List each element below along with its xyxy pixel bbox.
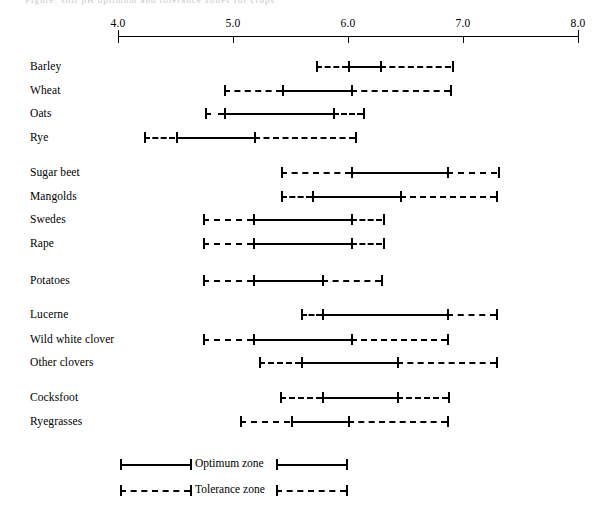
range-bar: [0, 214, 608, 226]
tolerance-cap-left: [281, 167, 283, 178]
tolerance-segment-left: [280, 397, 321, 399]
optimum-cap-right: [447, 309, 449, 320]
range-bar: [0, 61, 608, 73]
tolerance-cap-left: [203, 214, 205, 225]
tolerance-segment-left: [203, 219, 252, 221]
tolerance-segment-left: [301, 314, 322, 316]
tolerance-cap-right: [450, 85, 452, 96]
ph-range-chart: Figure: soil pH optimum and tolerance zo…: [0, 0, 608, 512]
optimum-cap-left: [176, 132, 178, 143]
tolerance-segment-right: [397, 397, 448, 399]
tolerance-cap-left: [316, 61, 318, 72]
optimum-cap-right: [397, 392, 399, 403]
tolerance-segment-left: [203, 280, 252, 282]
range-bar: [0, 191, 608, 203]
tolerance-segment-right: [400, 196, 497, 198]
optimum-segment: [253, 219, 352, 221]
optimum-cap-left: [253, 334, 255, 345]
tolerance-segment-right: [333, 113, 363, 115]
optimum-cap-left: [253, 238, 255, 249]
optimum-segment: [176, 137, 254, 139]
optimum-cap-right: [380, 61, 382, 72]
tolerance-cap-right: [447, 416, 449, 427]
tolerance-segment-left: [224, 90, 283, 92]
optimum-cap-left: [322, 392, 324, 403]
tolerance-segment-left: [259, 362, 300, 364]
tolerance-segment-right: [351, 219, 382, 221]
optimum-cap-right: [397, 357, 399, 368]
tolerance-segment-right: [254, 137, 355, 139]
optimum-segment: [224, 113, 333, 115]
tolerance-segment-left: [144, 137, 175, 139]
range-bar: [0, 275, 608, 287]
tolerance-segment-right: [322, 280, 382, 282]
tolerance-cap-right: [355, 132, 357, 143]
axis-tick-label: 6.0: [328, 17, 368, 29]
optimum-cap-left: [253, 275, 255, 286]
optimum-cap-left: [253, 214, 255, 225]
tolerance-segment-left: [281, 172, 351, 174]
legend-tolerance-cap: [190, 485, 192, 496]
tolerance-cap-left: [205, 108, 207, 119]
axis-tick-label: 7.0: [443, 17, 483, 29]
optimum-segment: [351, 172, 446, 174]
optimum-cap-right: [447, 167, 449, 178]
range-bar: [0, 392, 608, 404]
legend-tolerance-cap: [276, 485, 278, 496]
tolerance-segment-right: [447, 172, 498, 174]
legend-optimum-line-right: [276, 464, 346, 466]
optimum-cap-right: [254, 132, 256, 143]
range-bar: [0, 108, 608, 120]
axis-tick-label: 5.0: [213, 17, 253, 29]
tolerance-segment-left: [316, 66, 348, 68]
optimum-cap-left: [291, 416, 293, 427]
axis-tick-4.0: [118, 30, 119, 43]
range-bar: [0, 357, 608, 369]
tolerance-cap-right: [452, 61, 454, 72]
tolerance-cap-right: [383, 214, 385, 225]
optimum-cap-left: [224, 108, 226, 119]
legend-optimum-cap: [120, 459, 122, 470]
legend-tolerance-cap: [346, 485, 348, 496]
optimum-cap-right: [322, 275, 324, 286]
legend-optimum: Optimum zone: [0, 459, 608, 471]
optimum-cap-left: [282, 85, 284, 96]
optimum-segment: [348, 66, 380, 68]
tolerance-segment-left: [240, 421, 291, 423]
tolerance-segment-right: [380, 66, 451, 68]
optimum-segment: [282, 90, 351, 92]
optimum-cap-left: [301, 357, 303, 368]
legend-optimum-line-left: [120, 464, 190, 466]
tolerance-cap-right: [447, 334, 449, 345]
tolerance-cap-right: [383, 238, 385, 249]
axis-tick-8.0: [578, 30, 579, 43]
cut-off-caption: Figure: soil pH optimum and tolerance zo…: [0, 0, 608, 9]
range-bar: [0, 132, 608, 144]
tolerance-cap-left: [281, 191, 283, 202]
axis-tick-5.0: [233, 36, 234, 43]
legend-tolerance-line-right: [276, 490, 346, 492]
tolerance-segment-right: [348, 421, 447, 423]
tolerance-segment-left: [203, 339, 252, 341]
tolerance-cap-right: [496, 309, 498, 320]
tolerance-cap-left: [259, 357, 261, 368]
range-bar: [0, 167, 608, 179]
legend-tolerance: Tolerance zone: [0, 485, 608, 497]
optimum-segment: [301, 362, 398, 364]
optimum-cap-right: [351, 334, 353, 345]
legend-optimum-cap: [190, 459, 192, 470]
optimum-cap-right: [348, 416, 350, 427]
tolerance-cap-right: [381, 275, 383, 286]
optimum-cap-left: [348, 61, 350, 72]
tolerance-segment-right: [351, 243, 382, 245]
optimum-cap-left: [351, 167, 353, 178]
optimum-segment: [253, 339, 352, 341]
tolerance-segment-left: [205, 113, 223, 115]
tolerance-cap-left: [301, 309, 303, 320]
tolerance-cap-left: [280, 392, 282, 403]
tolerance-segment-left: [281, 196, 312, 198]
axis-tick-label: 4.0: [98, 17, 138, 29]
tolerance-segment-left: [203, 243, 252, 245]
range-bar: [0, 334, 608, 346]
tolerance-segment-right: [397, 362, 496, 364]
